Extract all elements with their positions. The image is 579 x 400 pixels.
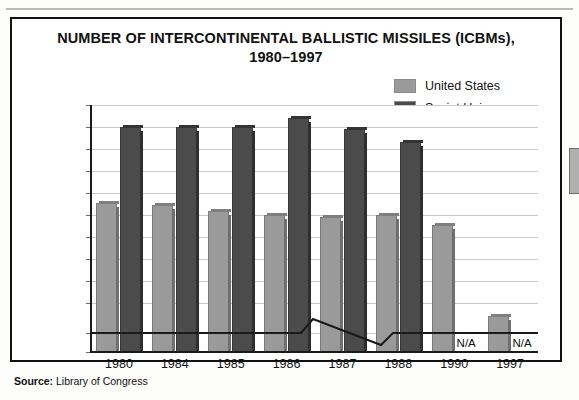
x-tick-label-1986: 1986 (259, 357, 315, 371)
bar-us-1984[interactable] (152, 205, 173, 352)
bar-top-cap (179, 125, 199, 128)
bar-side-shade (196, 131, 199, 351)
na-label-1997: N/A (509, 337, 536, 349)
bar-us-1988[interactable] (376, 215, 397, 352)
bar-group-1984 (152, 105, 197, 352)
x-tick-label-1984: 1984 (147, 357, 203, 371)
chart-title-line-1: NUMBER OF INTERCONTINENTAL BALLISTIC MIS… (57, 30, 515, 46)
page-side-tab[interactable] (569, 148, 579, 194)
x-tick-label-1987: 1987 (315, 357, 371, 371)
bar-side-shade (420, 146, 423, 351)
bar-side-shade (452, 229, 455, 351)
bar-top-cap (155, 203, 175, 206)
bar-side-shade (140, 131, 143, 351)
bar-su-1984[interactable] (176, 127, 197, 352)
bar-side-shade (116, 207, 119, 351)
page-top-rule (6, 8, 573, 10)
x-axis-line (90, 351, 538, 353)
x-tick-label-1985: 1985 (203, 357, 259, 371)
na-label-1990: N/A (453, 337, 480, 349)
legend-item-united-states[interactable]: United States (394, 77, 544, 95)
source-label: Source: (14, 375, 53, 387)
bar-top-cap (267, 213, 287, 216)
bar-side-shade (252, 131, 255, 351)
plot-area: N/AN/A (91, 105, 538, 352)
y-axis-line (90, 105, 92, 352)
bar-group-1988 (376, 105, 421, 352)
bar-su-1986[interactable] (288, 118, 309, 352)
bar-side-shade (284, 219, 287, 351)
figure-frame: NUMBER OF INTERCONTINENTAL BALLISTIC MIS… (10, 17, 562, 362)
bar-side-shade (364, 133, 367, 351)
chart-title: NUMBER OF INTERCONTINENTAL BALLISTIC MIS… (12, 29, 560, 67)
legend-label-united-states: United States (425, 79, 500, 93)
bar-su-1987[interactable] (344, 129, 365, 352)
chart-page: NUMBER OF INTERCONTINENTAL BALLISTIC MIS… (0, 0, 579, 400)
bar-group-1985 (208, 105, 253, 352)
bar-group-1990: N/A (432, 105, 477, 352)
bar-us-1985[interactable] (208, 211, 229, 352)
bar-side-shade (228, 215, 231, 351)
bar-su-1985[interactable] (232, 127, 253, 352)
bar-us-1997[interactable] (488, 316, 509, 352)
bar-top-cap (211, 209, 231, 212)
bar-side-shade (340, 221, 343, 351)
bar-us-1987[interactable] (320, 217, 341, 352)
bar-group-1987 (320, 105, 365, 352)
bar-us-1980[interactable] (96, 203, 117, 352)
source-text: Library of Congress (56, 375, 148, 387)
bar-side-shade (308, 122, 311, 351)
bar-su-1988[interactable] (400, 142, 421, 352)
bar-group-1980 (96, 105, 141, 352)
x-axis-tick-labels: 19801984198519861987198819901997 (91, 357, 538, 375)
bar-side-shade (172, 209, 175, 351)
x-tick-label-1988: 1988 (370, 357, 426, 371)
bar-top-cap (99, 201, 119, 204)
bar-side-shade (396, 219, 399, 351)
source-note: Source: Library of Congress (14, 375, 148, 387)
bar-top-cap (379, 213, 399, 216)
bar-top-cap (435, 223, 455, 226)
bar-su-1980[interactable] (120, 127, 141, 352)
bar-top-cap (491, 314, 511, 317)
bar-top-cap (323, 215, 343, 218)
bar-us-1990[interactable] (432, 225, 453, 352)
bar-group-1997: N/A (488, 105, 533, 352)
bar-top-cap (347, 127, 367, 130)
bar-top-cap (403, 140, 423, 143)
bar-group-1986 (264, 105, 309, 352)
x-tick-label-1990: 1990 (426, 357, 482, 371)
bar-top-cap (235, 125, 255, 128)
chart-title-line-2: 1980–1997 (12, 48, 560, 67)
bar-top-cap (123, 125, 143, 128)
legend-swatch-united-states (394, 79, 416, 93)
x-tick-label-1980: 1980 (91, 357, 147, 371)
x-tick-label-1997: 1997 (482, 357, 538, 371)
bar-top-cap (291, 116, 311, 119)
bar-us-1986[interactable] (264, 215, 285, 352)
